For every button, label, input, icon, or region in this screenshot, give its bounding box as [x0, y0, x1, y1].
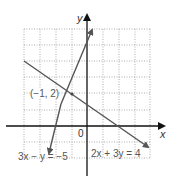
y-axis-label: y: [77, 13, 83, 24]
x-axis-label: x: [160, 129, 166, 140]
line2-equation-label: 2x + 3y = 4: [91, 149, 140, 159]
line-2x-plus-3y: [24, 61, 148, 147]
intersection-point: [70, 92, 73, 95]
origin-label: 0: [78, 129, 84, 139]
line1-equation-label: 3x − y = −5: [18, 152, 68, 162]
line-3x-minus-y: [49, 104, 61, 153]
intersection-label: (−1, 2): [30, 89, 59, 99]
